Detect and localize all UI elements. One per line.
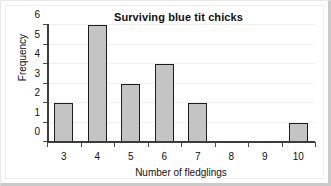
plot-wrap: 0123456 345678910: [47, 25, 315, 142]
x-tick-label: 4: [94, 151, 100, 162]
bar: [54, 103, 73, 142]
bar: [155, 64, 174, 142]
chart-card: Surviving blue tit chicks Frequency 0123…: [0, 0, 331, 186]
y-tick-label: 1: [34, 106, 40, 117]
y-tick-label: 6: [34, 9, 40, 20]
y-tick-label: 4: [34, 48, 40, 59]
bar: [121, 84, 140, 143]
x-tick-label: 7: [195, 151, 201, 162]
bar: [88, 25, 107, 142]
y-tick-label: 2: [34, 87, 40, 98]
y-tick-label: 3: [34, 67, 40, 78]
plot-area: 0123456 345678910: [47, 25, 315, 142]
x-axis-line: [47, 141, 315, 143]
x-tick-mark: [315, 142, 316, 147]
x-tick-label: 6: [161, 151, 167, 162]
x-tick-label: 3: [61, 151, 67, 162]
x-tick-label: 10: [293, 151, 304, 162]
y-axis-title: Frequency: [17, 18, 28, 98]
bar: [289, 123, 308, 142]
x-tick-label: 5: [128, 151, 134, 162]
y-axis-line: [47, 24, 49, 142]
x-tick-label: 9: [262, 151, 268, 162]
x-tick-label: 8: [228, 151, 234, 162]
bar: [188, 103, 207, 142]
chart-title: Surviving blue tit chicks: [6, 11, 323, 23]
x-axis-title: Number of fledglings: [47, 167, 315, 178]
y-tick-label: 0: [34, 126, 40, 137]
y-tick-label: 5: [34, 28, 40, 39]
chart-inner-frame: Surviving blue tit chicks Frequency 0123…: [5, 5, 324, 179]
